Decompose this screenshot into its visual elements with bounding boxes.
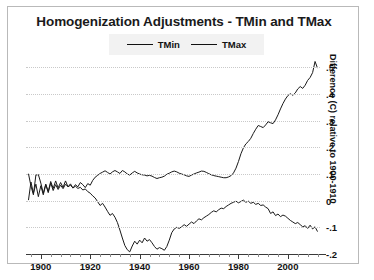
x-minor-tick	[169, 254, 170, 257]
x-minor-tick	[31, 254, 32, 257]
gridline	[26, 147, 320, 148]
legend-label-tmin: TMin	[158, 39, 180, 50]
gridline	[26, 174, 320, 175]
x-minor-tick	[308, 254, 309, 257]
x-minor-tick	[209, 254, 210, 257]
x-minor-tick	[199, 254, 200, 257]
x-minor-tick	[219, 254, 220, 257]
x-minor-tick	[278, 254, 279, 257]
x-major-tick	[140, 254, 141, 259]
x-minor-tick	[51, 254, 52, 257]
plot-area	[26, 54, 320, 254]
chart-legend: TMin TMax	[109, 34, 264, 55]
x-minor-tick	[150, 254, 151, 257]
x-major-tick	[288, 254, 289, 259]
x-minor-tick	[318, 254, 319, 257]
legend-label-tmax: TMax	[222, 39, 246, 50]
gridline	[26, 227, 320, 228]
y-tick-label: .1	[326, 169, 334, 180]
x-minor-tick	[110, 254, 111, 257]
x-minor-tick	[268, 254, 269, 257]
x-tick-label: 1960	[178, 261, 199, 272]
x-major-tick	[238, 254, 239, 259]
y-tick-label: .5	[326, 62, 334, 73]
series-line-tmax	[28, 182, 317, 252]
x-minor-tick	[229, 254, 230, 257]
x-minor-tick	[120, 254, 121, 257]
x-major-tick	[90, 254, 91, 259]
x-minor-tick	[100, 254, 101, 257]
y-tick-label: .2	[326, 142, 334, 153]
y-tick-label: .4	[326, 89, 334, 100]
x-tick-label: 2000	[277, 261, 298, 272]
x-minor-tick	[130, 254, 131, 257]
x-major-tick	[189, 254, 190, 259]
series-lines	[26, 54, 320, 254]
y-tick-label: -.1	[326, 222, 337, 233]
gridline	[26, 121, 320, 122]
gridline	[26, 94, 320, 95]
y-tick-label: -.2	[326, 249, 337, 260]
x-minor-tick	[298, 254, 299, 257]
gridline	[26, 201, 320, 202]
x-tick-label: 1940	[129, 261, 150, 272]
x-minor-tick	[80, 254, 81, 257]
x-minor-tick	[159, 254, 160, 257]
legend-line-icon	[191, 44, 217, 45]
legend-item-tmin: TMin	[127, 39, 180, 50]
x-tick-label: 1920	[80, 261, 101, 272]
x-tick-label: 1980	[228, 261, 249, 272]
y-tick-label: 0	[326, 195, 331, 206]
chart-title: Homogenization Adjustments - TMin and TM…	[8, 14, 360, 29]
gridline	[26, 67, 320, 68]
x-minor-tick	[258, 254, 259, 257]
legend-line-icon	[127, 44, 153, 45]
x-major-tick	[41, 254, 42, 259]
y-tick-label: .3	[326, 115, 334, 126]
legend-item-tmax: TMax	[191, 39, 246, 50]
chart-figure: Homogenization Adjustments - TMin and TM…	[7, 6, 359, 264]
x-minor-tick	[248, 254, 249, 257]
x-tick-label: 1900	[30, 261, 51, 272]
x-minor-tick	[70, 254, 71, 257]
x-minor-tick	[179, 254, 180, 257]
x-minor-tick	[61, 254, 62, 257]
